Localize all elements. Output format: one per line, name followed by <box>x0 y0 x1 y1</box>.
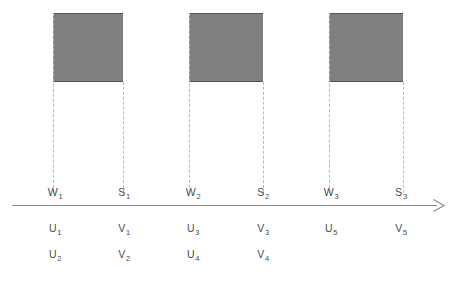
dropline-s1 <box>123 82 124 193</box>
symbol-label-u5: U5 <box>325 222 337 234</box>
axis-label-s1: S1 <box>118 186 130 198</box>
dropline-w1 <box>53 13 54 193</box>
axis-label-w3: W3 <box>324 186 339 198</box>
interval-block-3 <box>329 13 403 82</box>
symbol-label-v1: V1 <box>118 222 130 234</box>
symbol-label-u2: U2 <box>49 248 61 260</box>
axis-label-w1: W1 <box>48 186 63 198</box>
timeline-interval-diagram: W1S1W2S2W3S3 U1V1U3V3U5V5U2V2U4V4 <box>0 0 455 283</box>
axis-label-s3: S3 <box>395 186 407 198</box>
symbol-label-v5: V5 <box>395 222 407 234</box>
time-axis-line <box>12 205 437 206</box>
interval-block-1 <box>53 13 123 82</box>
arrow-right-icon <box>433 199 447 213</box>
symbol-label-u1: U1 <box>49 222 61 234</box>
symbol-label-u3: U3 <box>187 222 199 234</box>
dropline-s3 <box>403 82 404 193</box>
dropline-w2 <box>189 13 190 193</box>
symbol-label-v3: V3 <box>257 222 269 234</box>
symbol-label-u4: U4 <box>187 248 199 260</box>
axis-label-w2: W2 <box>186 186 201 198</box>
axis-label-s2: S2 <box>257 186 269 198</box>
symbol-label-v2: V2 <box>118 248 130 260</box>
dropline-w3 <box>329 13 330 193</box>
dropline-s2 <box>263 82 264 193</box>
symbol-label-v4: V4 <box>257 248 269 260</box>
interval-block-2 <box>189 13 263 82</box>
